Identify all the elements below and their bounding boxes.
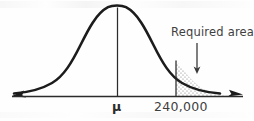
threshold-axis-label: 240,000 xyxy=(154,101,208,114)
normal-curve-figure: Required area μ 240,000 xyxy=(0,0,254,121)
bell-curve-graphic xyxy=(0,0,254,121)
mean-axis-label: μ xyxy=(112,101,121,114)
required-area-pointer-arrow xyxy=(194,43,201,74)
right-tail-arrowhead xyxy=(228,90,243,97)
required-area-annotation-label: Required area xyxy=(171,27,254,39)
